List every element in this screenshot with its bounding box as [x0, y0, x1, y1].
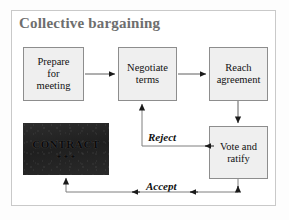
node-negotiate-terms[interactable]: Negotiate terms: [118, 47, 177, 101]
node-vote-line-2: ratify: [220, 153, 257, 165]
node-reach-agreement[interactable]: Reach agreement: [209, 47, 268, 101]
edge-label-accept: Accept: [144, 180, 179, 192]
node-prepare-line-2: for: [37, 68, 71, 80]
node-prepare-line-3: meeting: [37, 80, 71, 92]
node-reach-line-1: Reach: [217, 62, 261, 74]
node-prepare-for-meeting[interactable]: Prepare for meeting: [23, 47, 84, 101]
contract-seal-marks: ✦✦✦: [56, 153, 77, 161]
node-negotiate-line-1: Negotiate: [127, 62, 168, 74]
node-negotiate-line-2: terms: [127, 74, 168, 86]
node-contract-document[interactable]: CONTRACT ✦✦✦: [23, 123, 109, 175]
node-reach-line-2: agreement: [217, 74, 261, 86]
node-vote-line-1: Vote and: [220, 141, 257, 153]
node-vote-and-ratify[interactable]: Vote and ratify: [209, 126, 268, 179]
node-prepare-line-1: Prepare: [37, 56, 71, 68]
diagram-canvas: Collective bargaining Prepare for meetin…: [0, 0, 289, 220]
page-title: Collective bargaining: [19, 15, 160, 32]
edge-label-reject: Reject: [146, 131, 178, 143]
contract-label: CONTRACT: [32, 138, 100, 150]
